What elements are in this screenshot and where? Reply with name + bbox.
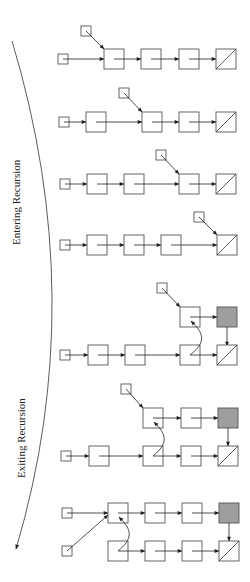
row-3: [60, 150, 236, 194]
recursion-list-reversal-diagram: Entering Recursion Exiting Recursion: [0, 0, 250, 582]
row-2: [59, 88, 236, 132]
row-4: [60, 212, 237, 255]
row-5: [60, 283, 237, 365]
reversed-head-node: [217, 307, 237, 327]
row-6: [61, 384, 238, 466]
entering-recursion-label: Entering Recursion: [10, 159, 22, 245]
row-7: [62, 503, 239, 561]
exiting-recursion-label: Exiting Recursion: [15, 398, 27, 478]
reversed-head-node: [219, 503, 239, 523]
reversed-head-node: [218, 408, 238, 428]
row-1: [58, 26, 236, 69]
